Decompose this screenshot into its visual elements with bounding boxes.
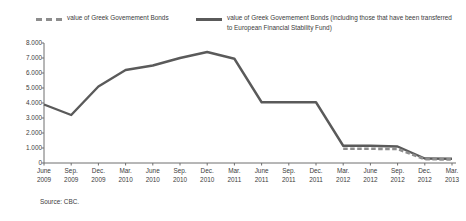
source-note: Source: CBC. <box>40 198 79 206</box>
chart-series <box>44 52 452 159</box>
x-axis-tick-year: 2009 <box>64 175 78 184</box>
x-axis-tick-label: Dec.2010 <box>200 166 214 184</box>
legend-item-greek-bonds: value of Greek Govemement Bonds <box>36 13 169 23</box>
x-axis-tick-month: June <box>146 166 160 175</box>
x-axis-tick-year: 2012 <box>363 175 377 184</box>
x-axis-tick-year: 2009 <box>37 175 51 184</box>
x-axis-tick-year: 2010 <box>146 175 160 184</box>
x-axis-tick-year: 2012 <box>390 175 404 184</box>
x-axis-tick-label: Sep.2012 <box>390 166 404 184</box>
x-axis-tick-year: 2010 <box>118 175 132 184</box>
x-axis-tick-label: Sep.2009 <box>64 166 78 184</box>
x-axis-tick-month: Dec. <box>91 166 105 175</box>
x-axis-tick-month: Sep. <box>390 166 404 175</box>
x-axis-tick-label: Mar.2013 <box>445 166 459 184</box>
x-axis-tick-month: Sep. <box>282 166 296 175</box>
x-axis-tick-month: Mar. <box>118 166 132 175</box>
x-axis-tick-label: June2011 <box>255 166 269 184</box>
x-axis-tick-year: 2012 <box>336 175 350 184</box>
x-axis-tick-month: June <box>363 166 377 175</box>
x-axis-tick-label: June2010 <box>146 166 160 184</box>
x-axis-tick-month: Sep. <box>173 166 187 175</box>
x-axis-tick-year: 2010 <box>173 175 187 184</box>
legend-label-greek-bonds-including-efsf: value of Greek Govemement Bonds (includi… <box>227 13 458 32</box>
x-axis-tick-label: Sep.2011 <box>282 166 296 184</box>
x-axis-tick-label: Mar.2011 <box>228 166 242 184</box>
legend-swatch-solid-line-icon <box>196 18 222 21</box>
x-axis-tick-label: Sep.2010 <box>173 166 187 184</box>
x-axis-tick-label: June2009 <box>37 166 51 184</box>
x-axis-tick-month: Dec. <box>200 166 214 175</box>
chart-plot-area: 01.0002.0003.0004.0005.0006.0007.0008.00… <box>0 38 466 178</box>
x-axis-tick-month: Mar. <box>445 166 459 175</box>
chart-canvas <box>0 38 466 178</box>
series-line-greek-bonds-including-efsf <box>44 52 452 159</box>
x-axis-tick-month: Dec. <box>418 166 432 175</box>
x-axis-tick-year: 2011 <box>228 175 242 184</box>
x-axis-tick-year: 2011 <box>255 175 269 184</box>
chart-figure: value of Greek Govemement Bonds value of… <box>0 0 466 221</box>
x-axis-tick-month: Mar. <box>228 166 242 175</box>
x-axis-tick-month: Dec. <box>309 166 323 175</box>
x-axis-tick-label: Dec.2009 <box>91 166 105 184</box>
legend-item-greek-bonds-including-efsf: value of Greek Govemement Bonds (includi… <box>196 13 458 32</box>
x-axis-tick-year: 2010 <box>200 175 214 184</box>
x-axis-tick-month: Sep. <box>64 166 78 175</box>
x-axis-tick-year: 2013 <box>445 175 459 184</box>
x-axis-tick-month: June <box>255 166 269 175</box>
x-axis-tick-label: Dec.2012 <box>418 166 432 184</box>
x-axis-tick-labels: June2009Sep.2009Dec.2009Mar.2010June2010… <box>0 166 466 190</box>
x-axis-tick-label: Mar.2010 <box>118 166 132 184</box>
x-axis-tick-label: Mar.2012 <box>336 166 350 184</box>
x-axis-tick-year: 2009 <box>91 175 105 184</box>
x-axis-tick-year: 2011 <box>282 175 296 184</box>
legend-label-greek-bonds: value of Greek Govemement Bonds <box>67 13 169 23</box>
x-axis-tick-year: 2011 <box>309 175 323 184</box>
x-axis-tick-month: Mar. <box>336 166 350 175</box>
legend-swatch-dashed-line-icon <box>36 18 62 21</box>
x-axis-tick-year: 2012 <box>418 175 432 184</box>
x-axis-tick-label: June2012 <box>363 166 377 184</box>
x-axis-tick-month: June <box>37 166 51 175</box>
x-axis-tick-label: Dec.2011 <box>309 166 323 184</box>
